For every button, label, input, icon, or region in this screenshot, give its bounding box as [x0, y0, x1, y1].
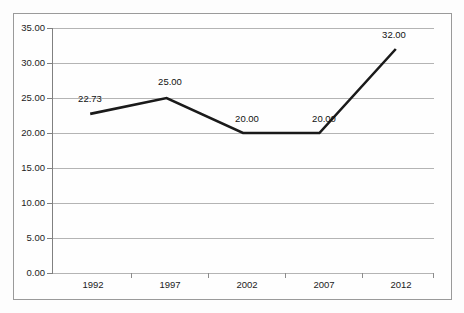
y-tick-label-30: 30.00 [1, 58, 45, 68]
y-tick-mark-5 [47, 238, 52, 239]
point-label-1997: 25.00 [143, 76, 197, 87]
y-axis-line [52, 28, 53, 274]
y-tick-mark-10 [47, 203, 52, 204]
x-tick-label-2007: 2007 [294, 279, 354, 290]
y-tick-mark-30 [47, 63, 52, 64]
gridline-20 [52, 133, 434, 134]
y-axis-tick-labels: 35.00 30.00 25.00 20.00 15.00 10.00 5.00… [0, 0, 45, 313]
x-tick-label-1997: 1997 [140, 279, 200, 290]
y-tick-label-25: 25.00 [1, 93, 45, 103]
gridline-5 [52, 238, 434, 239]
y-tick-mark-25 [47, 98, 52, 99]
y-tick-mark-0 [47, 273, 52, 274]
x-tick-mark-4 [433, 273, 434, 278]
line-chart-figure: 35.00 30.00 25.00 20.00 15.00 10.00 5.00… [0, 0, 464, 313]
point-label-2007: 20.00 [297, 113, 351, 124]
y-tick-mark-20 [47, 133, 52, 134]
y-tick-label-35: 35.00 [1, 23, 45, 33]
x-tick-mark-0 [131, 273, 132, 278]
gridline-0 [52, 273, 434, 274]
x-tick-label-2012: 2012 [371, 279, 431, 290]
y-tick-label-15: 15.00 [1, 163, 45, 173]
y-tick-label-20: 20.00 [1, 128, 45, 138]
x-tick-mark-2 [285, 273, 286, 278]
x-tick-mark-3 [362, 273, 363, 278]
gridline-10 [52, 203, 434, 204]
point-label-2002: 20.00 [220, 113, 274, 124]
y-tick-label-0: 0.00 [1, 268, 45, 278]
y-tick-mark-35 [47, 28, 52, 29]
y-tick-label-10: 10.00 [1, 198, 45, 208]
plot-area [52, 28, 434, 273]
point-label-1992: 22.73 [63, 93, 117, 104]
gridline-15 [52, 168, 434, 169]
y-tick-mark-15 [47, 168, 52, 169]
x-tick-mark-1 [208, 273, 209, 278]
x-tick-label-1992: 1992 [63, 279, 123, 290]
point-label-2012: 32.00 [367, 29, 421, 40]
gridline-30 [52, 63, 434, 64]
y-tick-label-5: 5.00 [1, 233, 45, 243]
x-tick-label-2002: 2002 [217, 279, 277, 290]
